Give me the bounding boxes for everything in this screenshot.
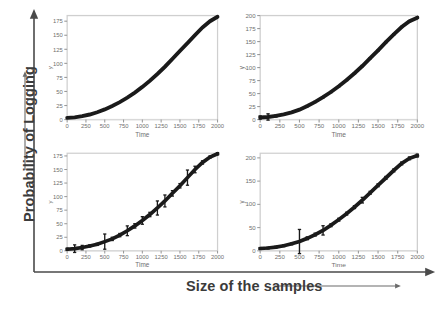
- panel-x-axis-title: Time: [135, 261, 149, 268]
- x-tick-label: 0: [66, 254, 69, 260]
- figure-canvas: Probability of Logging Size of the sampl…: [0, 0, 441, 309]
- panel-x-axis-title: Time: [331, 261, 346, 268]
- x-tick-label: 0: [258, 122, 262, 129]
- y-tick-label: 200: [245, 12, 256, 19]
- x-tick-label: 0: [258, 254, 262, 260]
- y-tick-label: 125: [245, 51, 256, 58]
- x-tick-label: 1500: [173, 254, 186, 260]
- y-tick-label: 100: [245, 64, 256, 71]
- x-tick-label: 1000: [136, 123, 150, 129]
- chart-panel-bottom-right[interactable]: 0501001502000250500750100012501500175020…: [236, 148, 422, 270]
- panel-y-axis-title: y: [46, 65, 53, 69]
- y-tick-label: 175: [53, 18, 63, 24]
- y-tick-label: 150: [245, 178, 256, 184]
- y-tick-label: 25: [56, 234, 63, 240]
- panel-x-axis-title: Time: [135, 131, 149, 138]
- y-tick-label: 75: [56, 207, 63, 213]
- y-tick-label: 50: [56, 89, 63, 95]
- x-tick-label: 2000: [411, 122, 425, 129]
- x-tick-label: 2000: [211, 254, 224, 260]
- y-tick-label: 50: [249, 225, 257, 231]
- plot-svg-top-right: 0255075100125150175200025050075010001250…: [236, 10, 422, 140]
- plot-frame: [260, 16, 417, 120]
- y-tick-label: 200: [245, 155, 256, 161]
- x-tick-label: 1250: [352, 254, 366, 260]
- x-tick-label: 500: [294, 254, 305, 260]
- plot-svg-bottom-right: 0501001502000250500750100012501500175020…: [236, 148, 422, 270]
- x-tick-label: 1000: [136, 254, 149, 260]
- y-tick-label: 125: [53, 180, 63, 186]
- y-tick-label: 75: [249, 77, 256, 84]
- y-tick-label: 0: [60, 117, 64, 123]
- chart-panel-top-left[interactable]: 0255075100125150175025050075010001250150…: [44, 10, 222, 140]
- x-tick-label: 1500: [371, 122, 385, 129]
- x-tick-label: 2000: [411, 254, 425, 260]
- chart-panel-top-right[interactable]: 0255075100125150175200025050075010001250…: [236, 10, 422, 140]
- y-tick-label: 175: [53, 153, 63, 159]
- x-tick-label: 750: [119, 254, 129, 260]
- y-tick-label: 150: [53, 32, 63, 38]
- x-tick-label: 1750: [192, 123, 206, 129]
- y-tick-label: 100: [53, 194, 63, 200]
- x-tick-label: 1500: [173, 123, 187, 129]
- y-tick-label: 0: [252, 248, 256, 254]
- x-tick-label: 1000: [332, 122, 346, 129]
- panel-grid: 0255075100125150175025050075010001250150…: [40, 8, 434, 270]
- x-tick-label: 1000: [332, 254, 346, 260]
- x-tick-label: 250: [275, 122, 286, 129]
- x-tick-label: 250: [81, 254, 91, 260]
- y-tick-label: 0: [60, 248, 63, 254]
- chart-panel-bottom-left[interactable]: 0255075100125150175025050075010001250150…: [44, 148, 222, 270]
- x-tick-label: 1250: [155, 254, 168, 260]
- x-tick-label: 1750: [391, 122, 405, 129]
- panel-x-axis-title: Time: [331, 131, 346, 138]
- x-tick-label: 500: [100, 254, 110, 260]
- y-tick-label: 150: [245, 38, 256, 45]
- x-tick-label: 1250: [352, 122, 366, 129]
- y-tick-label: 50: [249, 90, 256, 97]
- y-tick-label: 0: [252, 116, 256, 123]
- y-tick-label: 125: [53, 46, 63, 52]
- x-tick-label: 1750: [391, 254, 405, 260]
- x-tick-label: 500: [294, 122, 305, 129]
- panel-y-axis-title: y: [238, 200, 245, 204]
- y-tick-label: 175: [245, 25, 256, 32]
- panel-y-axis-title: y: [47, 201, 53, 204]
- x-tick-label: 750: [314, 122, 325, 129]
- plot-svg-top-left: 0255075100125150175025050075010001250150…: [44, 10, 222, 140]
- x-tick-label: 1250: [155, 123, 169, 129]
- y-tick-label: 25: [56, 103, 63, 109]
- plot-frame: [67, 16, 217, 120]
- x-tick-label: 1750: [192, 254, 205, 260]
- y-tick-label: 75: [56, 75, 63, 81]
- x-tick-label: 500: [100, 123, 110, 129]
- y-tick-label: 100: [53, 60, 63, 66]
- x-tick-label: 250: [81, 123, 91, 129]
- y-tick-label: 25: [249, 103, 256, 110]
- x-tick-label: 250: [275, 254, 286, 260]
- panel-y-axis-title: y: [238, 65, 246, 69]
- x-tick-label: 750: [119, 123, 129, 129]
- x-axis-title: Size of the samples: [186, 278, 322, 294]
- y-tick-label: 50: [56, 221, 63, 227]
- y-tick-label: 150: [53, 167, 63, 173]
- plot-frame: [260, 153, 417, 251]
- y-tick-label: 100: [245, 202, 256, 208]
- y-axis-title: Probability of Logging: [21, 59, 37, 229]
- x-tick-label: 750: [314, 254, 325, 260]
- x-tick-label: 1500: [371, 254, 385, 260]
- plot-svg-bottom-left: 0255075100125150175025050075010001250150…: [44, 148, 222, 270]
- x-tick-label: 0: [66, 123, 70, 129]
- x-tick-label: 2000: [211, 123, 225, 129]
